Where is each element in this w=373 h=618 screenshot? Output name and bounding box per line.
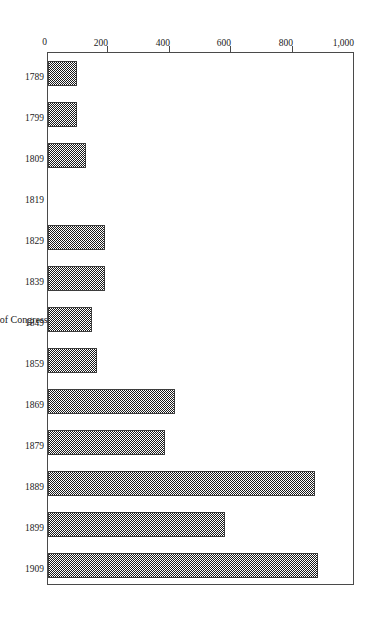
value-label-800: 800 xyxy=(278,38,292,48)
category-label-1819: 1819 xyxy=(25,196,44,206)
value-label-600: 600 xyxy=(217,38,231,48)
bar-1899 xyxy=(48,512,225,537)
bar-1869 xyxy=(48,389,175,414)
category-label-1889: 1889 xyxy=(25,483,44,493)
category-label-1839: 1839 xyxy=(25,278,44,288)
bar-1839 xyxy=(48,266,105,291)
category-label-1799: 1799 xyxy=(25,114,44,124)
category-label-1869: 1869 xyxy=(25,401,44,411)
bar-1799 xyxy=(48,102,77,127)
rotated-chart-stage: 02004006008001,000 178917991809181918291… xyxy=(0,0,373,618)
bar-1789 xyxy=(48,61,77,86)
category-label-1909: 1909 xyxy=(25,565,44,575)
category-label-1789: 1789 xyxy=(25,73,44,83)
category-label-1879: 1879 xyxy=(25,442,44,452)
bar-chart: 02004006008001,000 178917991809181918291… xyxy=(0,0,373,618)
category-label-1859: 1859 xyxy=(25,360,44,370)
category-label-1809: 1809 xyxy=(25,155,44,165)
bar-1809 xyxy=(48,143,86,168)
value-label-200: 200 xyxy=(94,38,108,48)
category-label-1899: 1899 xyxy=(25,524,44,534)
plot-area xyxy=(47,52,354,585)
value-label-0: 0 xyxy=(42,38,47,48)
bar-1889 xyxy=(48,471,315,496)
category-axis: 1789179918091819182918391849185918691879… xyxy=(0,52,47,585)
bar-1879 xyxy=(48,430,165,455)
value-label-1000: 1,000 xyxy=(333,38,354,48)
bar-1829 xyxy=(48,225,105,250)
bar-1849 xyxy=(48,307,93,332)
category-label-1829: 1829 xyxy=(25,237,44,247)
value-label-400: 400 xyxy=(156,38,170,48)
value-axis: 02004006008001,000 xyxy=(47,0,354,52)
category-label-1849: 1849 xyxy=(25,319,44,329)
bar-1859 xyxy=(48,348,97,373)
bar-1909 xyxy=(48,553,318,578)
